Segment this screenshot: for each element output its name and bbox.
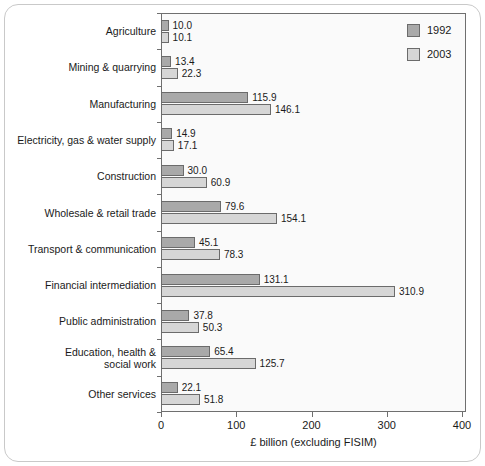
bar-2003 <box>161 140 174 151</box>
legend-label: 2003 <box>427 48 451 60</box>
bar-2003 <box>161 394 200 405</box>
x-axis-tick <box>161 412 162 417</box>
y-axis-tick <box>157 86 162 87</box>
bar-1992 <box>161 310 189 321</box>
y-axis-tick <box>157 376 162 377</box>
bar-2003 <box>161 177 207 188</box>
bar-value-label: 60.9 <box>211 177 230 188</box>
bar-value-label: 37.8 <box>193 310 212 321</box>
y-axis-label-3: Electricity, gas & water supply <box>6 134 156 146</box>
bar-2003 <box>161 358 256 369</box>
y-axis-tick <box>157 49 162 50</box>
bar-value-label: 65.4 <box>214 346 233 357</box>
bar-2003 <box>161 322 199 333</box>
plot-area: 10.010.113.422.3115.9146.114.917.130.060… <box>161 13 462 412</box>
y-axis-label-5: Wholesale & retail trade <box>6 207 156 219</box>
bar-group: 115.9146.1 <box>161 92 462 115</box>
chart-figure: AgricultureMining & quarryingManufacturi… <box>0 0 485 466</box>
chart-legend: 19922003 <box>407 21 471 69</box>
legend-swatch-icon <box>407 24 420 37</box>
bar-value-label: 30.0 <box>188 165 207 176</box>
bar-value-label: 10.1 <box>173 32 192 43</box>
bar-group: 65.4125.7 <box>161 346 462 369</box>
y-axis-label-0: Agriculture <box>6 25 156 37</box>
bar-1992 <box>161 201 221 212</box>
x-axis-tick-label: 0 <box>158 419 164 431</box>
bar-2003 <box>161 32 169 43</box>
y-axis-category-labels: AgricultureMining & quarryingManufacturi… <box>4 13 156 412</box>
x-axis-title: £ billion (excluding FISIM) <box>161 436 466 448</box>
bar-value-label: 154.1 <box>281 213 306 224</box>
y-axis-label-1: Mining & quarrying <box>6 61 156 73</box>
bar-value-label: 17.1 <box>178 140 197 151</box>
y-axis-tick <box>157 13 162 14</box>
bar-1992 <box>161 237 195 248</box>
bar-1992 <box>161 274 260 285</box>
bar-value-label: 13.4 <box>175 56 194 67</box>
bar-group: 45.178.3 <box>161 237 462 260</box>
bar-value-label: 125.7 <box>260 358 285 369</box>
bar-value-label: 22.3 <box>182 68 201 79</box>
bar-2003 <box>161 104 271 115</box>
y-axis-tick <box>157 194 162 195</box>
bar-1992 <box>161 20 169 31</box>
y-axis-tick <box>157 231 162 232</box>
bar-1992 <box>161 128 172 139</box>
y-axis-tick <box>157 339 162 340</box>
legend-item-1992[interactable]: 1992 <box>407 21 471 39</box>
legend-item-2003[interactable]: 2003 <box>407 45 471 63</box>
legend-label: 1992 <box>427 24 451 36</box>
bar-group: 37.850.3 <box>161 310 462 333</box>
bar-group: 79.6154.1 <box>161 201 462 224</box>
bar-group: 22.151.8 <box>161 382 462 405</box>
x-axis-tick <box>312 412 313 417</box>
bar-value-label: 10.0 <box>173 20 192 31</box>
x-axis-tick-label: 200 <box>302 419 320 431</box>
x-axis-tick <box>462 412 463 417</box>
bar-value-label: 50.3 <box>203 322 222 333</box>
bar-value-label: 45.1 <box>199 237 218 248</box>
bar-1992 <box>161 92 248 103</box>
y-axis-tick <box>157 158 162 159</box>
bar-value-label: 14.9 <box>176 128 195 139</box>
y-axis-label-8: Public administration <box>6 315 156 327</box>
bar-group: 131.1310.9 <box>161 274 462 297</box>
bar-1992 <box>161 165 184 176</box>
y-axis-label-4: Construction <box>6 170 156 182</box>
bar-1992 <box>161 346 210 357</box>
bar-1992 <box>161 56 171 67</box>
x-axis-tick <box>236 412 237 417</box>
y-axis-tick <box>157 267 162 268</box>
y-axis-label-6: Transport & communication <box>6 243 156 255</box>
bar-2003 <box>161 68 178 79</box>
bar-value-label: 78.3 <box>224 249 243 260</box>
bar-value-label: 79.6 <box>225 201 244 212</box>
bar-group: 30.060.9 <box>161 165 462 188</box>
bar-group: 14.917.1 <box>161 128 462 151</box>
bar-value-label: 131.1 <box>264 274 289 285</box>
y-axis-label-10: Other services <box>6 388 156 400</box>
bar-2003 <box>161 213 277 224</box>
y-axis-label-9: Education, health &social work <box>6 346 156 370</box>
bar-value-label: 51.8 <box>204 394 223 405</box>
x-axis-tick-label: 400 <box>453 419 471 431</box>
y-axis-label-7: Financial intermediation <box>6 279 156 291</box>
x-axis-tick-label: 300 <box>378 419 396 431</box>
bar-value-label: 22.1 <box>182 382 201 393</box>
bar-2003 <box>161 286 395 297</box>
x-axis-tick-label: 100 <box>227 419 245 431</box>
bar-2003 <box>161 249 220 260</box>
x-axis-tick <box>387 412 388 417</box>
bar-1992 <box>161 382 178 393</box>
bar-value-label: 310.9 <box>399 286 424 297</box>
y-axis-tick <box>157 303 162 304</box>
legend-swatch-icon <box>407 48 420 61</box>
y-axis-tick <box>157 122 162 123</box>
bar-value-label: 146.1 <box>275 104 300 115</box>
y-axis-label-2: Manufacturing <box>6 98 156 110</box>
bar-value-label: 115.9 <box>252 92 276 103</box>
